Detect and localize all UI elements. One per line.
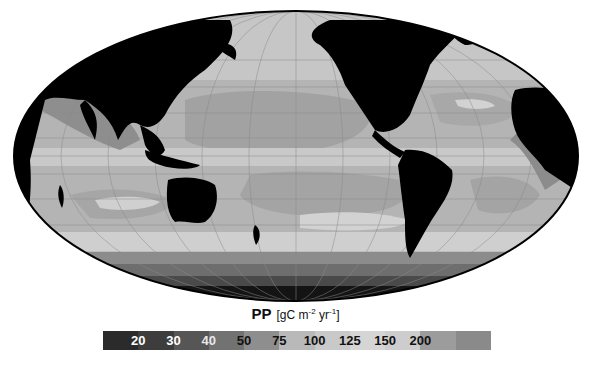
colorbar-tick-label: 100: [304, 333, 326, 348]
south-pacific-gyre: [240, 171, 406, 215]
colorbar-tick-label: 20: [131, 333, 145, 348]
australia: [167, 178, 217, 223]
southern-ocean-band: [0, 232, 591, 252]
variable-unit: [gC m-2 yr-1]: [277, 308, 340, 322]
colorbar-tick-label: 30: [166, 333, 180, 348]
colorbar-tick-label: 150: [374, 333, 396, 348]
colorbar-tick-label: 125: [339, 333, 361, 348]
colorbar-tick-label: 200: [410, 333, 432, 348]
legend-title: PP[gC m-2 yr-1]: [0, 305, 591, 322]
colorbar-tick-label: 75: [272, 333, 286, 348]
colorbar-tick-label: 40: [202, 333, 216, 348]
variable-name: PP: [252, 305, 272, 322]
primary-production-map: [0, 0, 591, 310]
equatorial-band: [0, 148, 591, 166]
colorbar-labels: 2030405075100125150200: [103, 331, 491, 350]
antarctica: [0, 286, 591, 306]
colorbar-tick-label: 50: [237, 333, 251, 348]
